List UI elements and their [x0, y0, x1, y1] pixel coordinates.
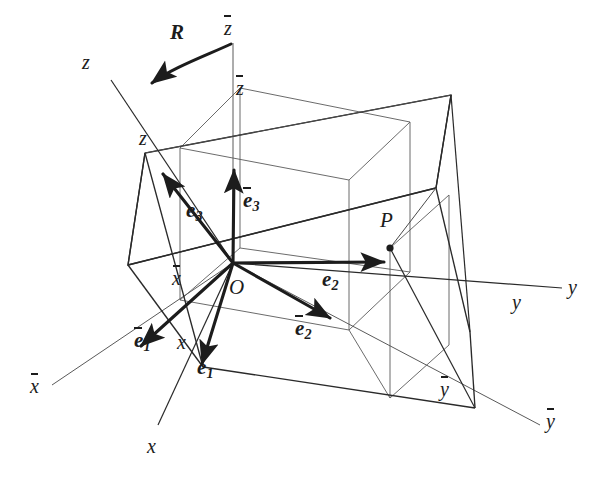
x-axis — [158, 263, 233, 425]
rotation-arrow — [152, 44, 231, 83]
point-P-label: P — [380, 210, 393, 231]
basis-label-e2: e2 — [322, 269, 339, 292]
basis-label-e1bar: e1 — [134, 330, 151, 353]
axis-label-xbar-corner: x — [172, 268, 181, 288]
e2bar-vector — [233, 263, 330, 318]
basis-label-e3: e3 — [186, 200, 203, 223]
basis-label-e3bar: e3 — [243, 190, 260, 213]
axis-label-xbar-tip: x — [30, 376, 39, 396]
axis-label-z-corner: z — [139, 128, 147, 148]
figure-canvas: R z z z z x x x x y y y y O P e3 e2 e1 e… — [0, 0, 601, 483]
z-axis — [111, 80, 233, 263]
axis-label-y-corner: y — [512, 292, 521, 312]
axis-label-y-tip: y — [568, 277, 577, 297]
ybar-axis — [233, 263, 540, 425]
diagram-vector-graphics — [0, 0, 601, 483]
axis-label-zbar-tip: z — [224, 18, 232, 38]
axis-label-ybar-tip: y — [546, 411, 555, 431]
axis-label-ybar-corner: y — [440, 379, 449, 399]
axis-label-x-tip: x — [147, 436, 156, 456]
axis-label-z-tip: z — [82, 52, 90, 72]
rotation-label: R — [170, 22, 184, 43]
basis-label-e2bar: e2 — [295, 318, 312, 341]
axis-label-zbar-corner: z — [236, 78, 244, 98]
axis-label-x-corner: x — [177, 332, 186, 352]
origin-label: O — [229, 277, 244, 298]
e2-vector — [233, 262, 384, 263]
basis-label-e1: e1 — [197, 357, 214, 380]
unbarred-frame-box — [128, 95, 487, 470]
point-P-marker — [386, 244, 393, 251]
e3bar-vector — [233, 170, 234, 263]
